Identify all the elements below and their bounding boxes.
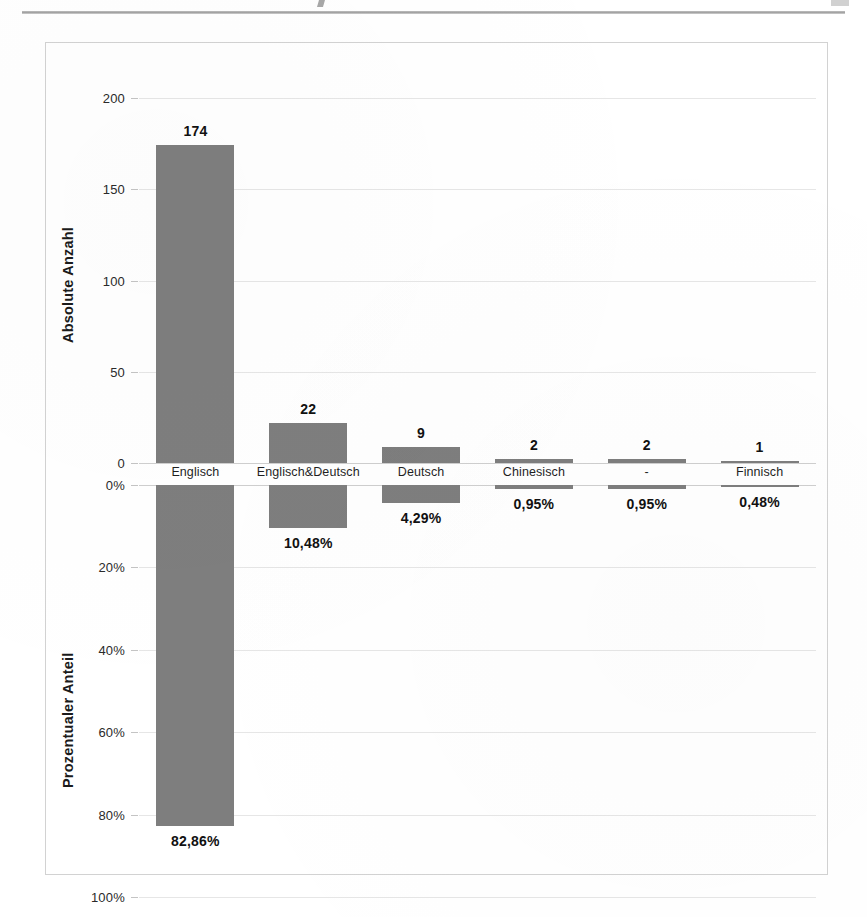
category-label: Chinesisch	[478, 465, 591, 479]
gridline	[139, 815, 816, 816]
bar-value-label: 0,95%	[478, 496, 591, 512]
y-tick-mark	[131, 485, 138, 486]
category-label: Englisch&Deutsch	[252, 465, 365, 479]
bar[interactable]	[269, 485, 347, 528]
gridline	[139, 189, 816, 190]
bar-value-label: 174	[139, 123, 252, 139]
y-tick-mark	[131, 815, 138, 816]
gridline	[139, 98, 816, 99]
bar-value-label: 22	[252, 401, 365, 417]
bar-value-label: 9	[365, 425, 478, 441]
y-tick-mark	[131, 650, 138, 651]
plot-area-percent: 0%20%40%60%80%100%82,86%10,48%4,29%0,95%…	[139, 485, 816, 897]
category-label: Englisch	[139, 465, 252, 479]
y-tick-mark	[131, 897, 138, 898]
gridline	[139, 281, 816, 282]
bar[interactable]	[721, 485, 799, 487]
bar-value-label: 10,48%	[252, 535, 365, 551]
category-label: Deutsch	[365, 465, 478, 479]
bar[interactable]	[382, 485, 460, 503]
y-tick-label: 50	[110, 364, 125, 379]
bar[interactable]	[156, 145, 234, 463]
gridline	[139, 650, 816, 651]
bar[interactable]	[269, 423, 347, 463]
category-axis-labels: EnglischEnglisch&DeutschDeutschChinesisc…	[139, 463, 816, 485]
gridline	[139, 485, 816, 486]
y-tick-label: 150	[103, 182, 125, 197]
y-tick-mark	[131, 567, 138, 568]
plot-area-absolute: 050100150200174229221	[139, 98, 816, 463]
y-tick-mark	[131, 281, 138, 282]
panel-percent-share: 0%20%40%60%80%100%82,86%10,48%4,29%0,95%…	[46, 485, 827, 897]
y-tick-mark	[131, 98, 138, 99]
y-tick-mark	[131, 732, 138, 733]
gridline	[139, 732, 816, 733]
bar-value-label: 1	[703, 439, 816, 455]
y-tick-label: 100%	[91, 890, 125, 905]
y-tick-label: 60%	[98, 725, 125, 740]
page-header-rule	[22, 11, 845, 14]
y-tick-label: 0	[118, 456, 125, 471]
bar-value-label: 2	[478, 437, 591, 453]
bar[interactable]	[156, 485, 234, 826]
bar-value-label: 4,29%	[365, 510, 478, 526]
bar-value-label: 0,95%	[590, 496, 703, 512]
bar-value-label: 0,48%	[703, 494, 816, 510]
gridline	[139, 372, 816, 373]
gridline	[139, 567, 816, 568]
page-corner-mark	[831, 0, 849, 6]
y-tick-label: 40%	[98, 642, 125, 657]
gridline	[139, 897, 816, 898]
y-tick-mark	[131, 372, 138, 373]
category-label: Finnisch	[703, 465, 816, 479]
panel-absolute-counts: 050100150200174229221	[46, 98, 827, 463]
cut-off-text-descender	[317, 0, 325, 7]
category-label: -	[590, 465, 703, 479]
bar-value-label: 2	[590, 437, 703, 453]
bar[interactable]	[382, 447, 460, 463]
y-tick-label: 200	[103, 91, 125, 106]
bar[interactable]	[608, 485, 686, 489]
chart-frame: Absolute Anzahl Prozentualer Anteil 0501…	[45, 42, 828, 875]
y-tick-label: 80%	[98, 807, 125, 822]
y-tick-label: 0%	[106, 478, 125, 493]
y-tick-mark	[131, 189, 138, 190]
y-tick-mark	[131, 463, 138, 464]
bar[interactable]	[495, 485, 573, 489]
y-tick-label: 20%	[98, 560, 125, 575]
bar-value-label: 82,86%	[139, 833, 252, 849]
y-tick-label: 100	[103, 273, 125, 288]
